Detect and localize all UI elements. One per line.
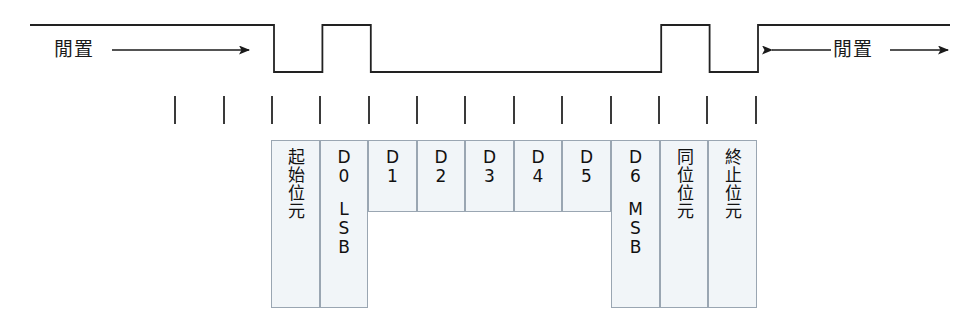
frame-cell-data-bit-0[interactable]: D 0L S B <box>320 140 368 308</box>
frame-cell-data-bit-5[interactable]: D 5 <box>562 140 611 212</box>
frame-cell-data-bit-4[interactable]: D 4 <box>514 140 562 212</box>
uart-frame-timing-diagram: 閒置 閒置 起始位元D 0L S BD 1D 2D 3D 4D 5D 6M S … <box>0 0 978 330</box>
frame-cell-data-bit-1[interactable]: D 1 <box>368 140 417 212</box>
frame-cell-data-bit-3[interactable]: D 3 <box>465 140 514 212</box>
frame-cell-sublabel: L S B <box>338 200 350 257</box>
frame-cell-label: D 0 <box>337 148 350 186</box>
frame-cell-data-bit-6[interactable]: D 6M S B <box>611 140 660 308</box>
frame-cell-label: D 1 <box>386 148 399 186</box>
idle-label-right: 閒置 <box>833 40 873 59</box>
bit-boundary-ticks <box>175 96 756 124</box>
frame-cell-label: 終止位元 <box>723 148 741 220</box>
signal-waveform <box>30 25 950 72</box>
signal-line <box>30 25 950 72</box>
frame-cell-label: D 6 <box>629 148 642 186</box>
frame-cell-data-bit-2[interactable]: D 2 <box>417 140 465 212</box>
frame-cell-label: 起始位元 <box>286 148 304 220</box>
frame-cell-label: D 3 <box>483 148 496 186</box>
frame-cell-label: D 2 <box>434 148 447 186</box>
frame-cell-stop-bit[interactable]: 終止位元 <box>708 140 757 308</box>
frame-cell-label: D 5 <box>580 148 593 186</box>
frame-cell-start-bit[interactable]: 起始位元 <box>271 140 320 308</box>
idle-label-left: 閒置 <box>54 40 94 59</box>
frame-cell-label: 同位位元 <box>675 148 693 220</box>
frame-cell-label: D 4 <box>531 148 544 186</box>
frame-cell-parity-bit[interactable]: 同位位元 <box>660 140 708 308</box>
frame-cell-sublabel: M S B <box>628 200 643 257</box>
